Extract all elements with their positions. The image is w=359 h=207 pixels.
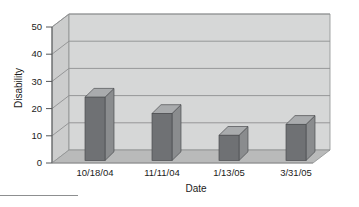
bar-column-4[interactable] [286, 116, 315, 161]
y-tick-20: 20 [31, 103, 42, 114]
bar-2-front [152, 114, 172, 161]
x-tick-2: 11/11/04 [144, 167, 180, 178]
chart-figure: 0 10 20 30 40 50 [0, 0, 359, 207]
bar-2-side [172, 105, 181, 161]
bar-1-side [105, 88, 114, 160]
y-tick-50: 50 [31, 21, 42, 32]
y-axis [46, 27, 52, 163]
bar-column-1[interactable] [85, 88, 114, 160]
bar-3-front [219, 135, 239, 160]
x-tick-labels: 10/18/04 11/11/04 1/13/05 3/31/05 [77, 167, 312, 178]
bar-4-front [286, 124, 306, 160]
figure-separator-rule [0, 195, 78, 196]
y-tick-30: 30 [31, 76, 42, 87]
x-tick-4: 3/31/05 [280, 167, 312, 178]
y-tick-10: 10 [31, 130, 42, 141]
y-tick-40: 40 [31, 48, 42, 59]
bar-chart-canvas: 0 10 20 30 40 50 [0, 0, 359, 207]
bar-column-3[interactable] [219, 127, 248, 161]
y-axis-title: Disability [13, 68, 24, 108]
x-tick-1: 10/18/04 [77, 167, 114, 178]
x-tick-3: 1/13/05 [213, 167, 245, 178]
plot-left-wall [52, 14, 69, 163]
y-tick-labels: 0 10 20 30 40 50 [31, 21, 42, 168]
bar-column-2[interactable] [152, 105, 181, 161]
x-axis-title: Date [185, 183, 207, 194]
y-tick-0: 0 [37, 157, 42, 168]
bar-1-front [85, 97, 105, 160]
